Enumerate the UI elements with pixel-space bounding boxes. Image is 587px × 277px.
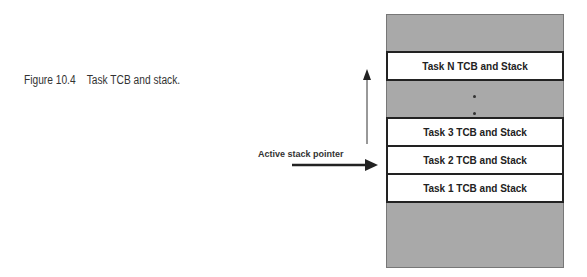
arrows-layer <box>0 0 587 277</box>
growth-direction-arrow-icon <box>363 69 371 144</box>
stack-pointer-arrow-icon <box>292 159 378 171</box>
